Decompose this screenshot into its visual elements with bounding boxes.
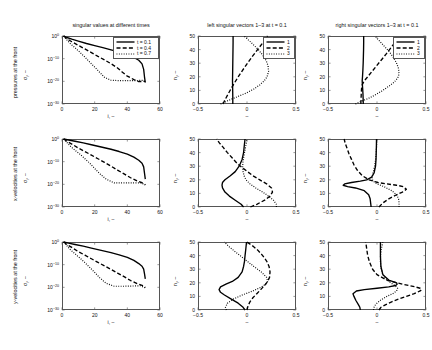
y-tick-label: 30 <box>169 163 195 169</box>
y-axis-label: ni, – <box>172 276 180 286</box>
y-tick-label: 10 <box>299 87 325 93</box>
column-title-2: right singular vectors 1–3 at t = 0.1 <box>307 22 432 28</box>
x-tick-label: 0.5 <box>423 312 430 318</box>
y-axis-label: σi, – <box>22 173 30 183</box>
legend-line-sample-dashed-icon <box>396 46 415 50</box>
y-tick-label: 50 <box>299 136 325 142</box>
series-line <box>344 139 406 207</box>
y-tick-label: 30 <box>169 60 195 66</box>
series-line <box>221 36 269 104</box>
y-tick-label: 0 <box>169 204 195 210</box>
y-tick-label: 10 <box>169 293 195 299</box>
x-tick-label: 60 <box>157 209 163 215</box>
x-tick-label: 20 <box>92 106 98 112</box>
x-axis-label: i, – <box>91 113 131 119</box>
series-line <box>64 242 146 279</box>
figure-canvas: singular values at different times10010−… <box>0 0 432 350</box>
x-axis-label: – <box>227 113 267 119</box>
legend-item: 3 <box>396 51 422 57</box>
x-tick-label: 0 <box>246 106 249 112</box>
legend-line-sample-dotted-icon <box>266 52 285 56</box>
legend: 123 <box>263 37 295 59</box>
row-label-0: pressures at the front <box>12 47 18 98</box>
y-tick-label: 10 <box>299 293 325 299</box>
x-tick-label: 0 <box>61 106 64 112</box>
x-tick-label: 0 <box>376 312 379 318</box>
x-axis-label: – <box>357 216 397 222</box>
x-tick-label: 40 <box>125 312 131 318</box>
y-tick-label: 10−30 <box>33 101 59 108</box>
y-tick-label: 50 <box>169 239 195 245</box>
plot-panel-r3c3: 01020304050−0.500.5–ni, – <box>328 242 426 310</box>
x-tick-label: 40 <box>125 106 131 112</box>
x-tick-label: 0 <box>246 209 249 215</box>
series-line <box>366 242 422 310</box>
plot-panel-r3c2: 01020304050−0.500.5–ni, – <box>198 242 296 310</box>
series-line <box>222 139 245 207</box>
y-tick-label: 100 <box>33 136 59 143</box>
y-tick-label: 10−10 <box>33 261 59 268</box>
y-tick-label: 10−30 <box>33 204 59 211</box>
plot-curves <box>62 139 160 207</box>
y-tick-label: 10 <box>299 190 325 196</box>
series-line <box>64 139 146 179</box>
y-tick-label: 10−20 <box>33 78 59 85</box>
x-tick-label: 60 <box>157 106 163 112</box>
y-tick-label: 30 <box>299 163 325 169</box>
legend: t = 0.1t = 0.4t = 0.7 <box>113 37 159 59</box>
x-tick-label: 0 <box>61 209 64 215</box>
y-tick-label: 10−30 <box>33 307 59 314</box>
plot-panel-r2c2: 01020304050−0.500.5–ni, – <box>198 139 296 207</box>
column-title-0: singular values at different times <box>41 22 181 28</box>
series-line <box>64 242 146 288</box>
x-tick-label: 0 <box>376 209 379 215</box>
x-tick-label: 20 <box>92 209 98 215</box>
y-tick-label: 0 <box>169 101 195 107</box>
y-tick-label: 40 <box>299 47 325 53</box>
x-axis-label: – <box>357 113 397 119</box>
series-line <box>353 242 397 310</box>
x-axis-label: – <box>227 319 267 325</box>
series-line <box>64 139 146 185</box>
y-tick-label: 100 <box>33 33 59 40</box>
legend-line-sample-solid-icon <box>116 40 135 44</box>
y-tick-label: 40 <box>169 150 195 156</box>
legend-item: 3 <box>266 51 292 57</box>
legend-label: 3 <box>417 51 420 56</box>
y-tick-label: 10 <box>169 190 195 196</box>
x-tick-label: 0.5 <box>423 209 430 215</box>
y-tick-label: 0 <box>299 307 325 313</box>
x-tick-label: 0 <box>376 106 379 112</box>
series-line <box>372 139 399 207</box>
series-line <box>374 242 398 310</box>
y-tick-label: 40 <box>169 253 195 259</box>
y-axis-label: ni, – <box>172 70 180 80</box>
x-tick-label: −0.5 <box>193 106 203 112</box>
y-tick-label: 10−20 <box>33 181 59 188</box>
plot-panel-r2c3: 01020304050−0.500.5–ni, – <box>328 139 426 207</box>
y-tick-label: 10−10 <box>33 55 59 62</box>
y-tick-label: 30 <box>299 266 325 272</box>
y-axis-label: ni, – <box>172 173 180 183</box>
y-tick-label: 40 <box>169 47 195 53</box>
x-axis-label: i, – <box>91 319 131 325</box>
series-line <box>362 36 363 104</box>
plot-curves <box>198 139 296 207</box>
y-tick-label: 40 <box>299 150 325 156</box>
y-tick-label: 50 <box>299 33 325 39</box>
y-axis-label: ni, – <box>302 70 310 80</box>
column-title-1: left singular vectors 1–3 at t = 0.1 <box>177 22 317 28</box>
y-tick-label: 50 <box>169 33 195 39</box>
series-line <box>247 242 270 310</box>
x-tick-label: 20 <box>92 312 98 318</box>
series-line <box>219 242 246 310</box>
legend-label: 3 <box>287 51 290 56</box>
x-tick-label: 0 <box>61 312 64 318</box>
y-axis-label: ni, – <box>302 276 310 286</box>
y-axis-label: σi, – <box>22 276 30 286</box>
y-tick-label: 10−10 <box>33 158 59 165</box>
legend-line-sample-solid-icon <box>396 40 415 44</box>
y-tick-label: 0 <box>299 101 325 107</box>
x-tick-label: −0.5 <box>323 209 333 215</box>
plot-curves <box>62 242 160 310</box>
